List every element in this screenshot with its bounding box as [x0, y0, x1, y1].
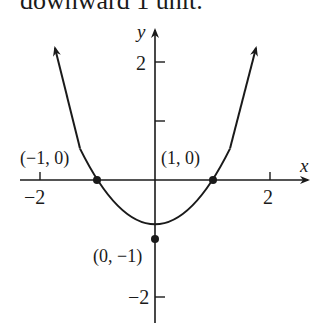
parabola-graph: x y −2 2 2 −2 (−1, 0) (1, 0) (0, −1): [0, 0, 329, 323]
x-tick-label-2: 2: [263, 186, 273, 208]
point-neg1-0: [93, 176, 101, 184]
x-tick-label-neg2: −2: [24, 186, 45, 208]
point-1-0: [209, 176, 217, 184]
y-tick-label-neg2: −2: [128, 286, 149, 308]
curve-right-arm: [230, 48, 256, 149]
point-label-vertex: (0, −1): [93, 246, 142, 267]
point-label-neg1-0: (−1, 0): [20, 148, 69, 169]
point-label-1-0: (1, 0): [161, 148, 200, 169]
point-vertex: [151, 235, 159, 243]
y-tick-label-2: 2: [136, 52, 146, 74]
y-axis-label: y: [135, 21, 146, 42]
x-axis-label: x: [299, 155, 309, 176]
curve-left-arm: [55, 48, 80, 149]
